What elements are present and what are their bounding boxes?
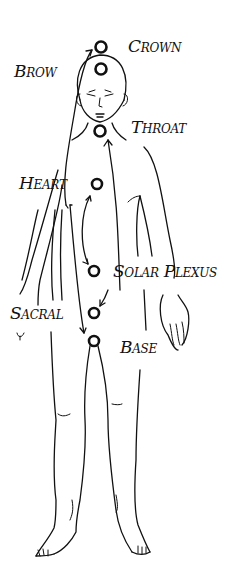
crown-chakra-circle <box>96 42 107 53</box>
heart-label: Heart <box>19 175 67 192</box>
crown-label: Crown <box>128 38 181 55</box>
chakra-diagram: Crown Brow Throat Heart Solar Plexus Sac… <box>0 0 244 587</box>
energy-arrows <box>65 50 120 333</box>
sacral-label: Sacral <box>10 305 63 322</box>
sacral-chakra-circle <box>89 308 99 318</box>
throat-label: Throat <box>131 119 186 136</box>
body-figure <box>0 0 244 587</box>
arrow-heart-solar-plexus <box>82 196 90 264</box>
brow-label: Brow <box>14 63 57 80</box>
solar-plexus-label: Solar Plexus <box>113 263 217 280</box>
brow-chakra-circle <box>96 64 107 75</box>
legs-outline <box>36 332 150 556</box>
heart-chakra-circle <box>92 179 102 189</box>
throat-chakra-circle <box>95 126 106 137</box>
solar-plexus-chakra-circle <box>89 266 99 276</box>
base-label: Base <box>120 339 157 356</box>
base-chakra-circle <box>89 336 99 346</box>
